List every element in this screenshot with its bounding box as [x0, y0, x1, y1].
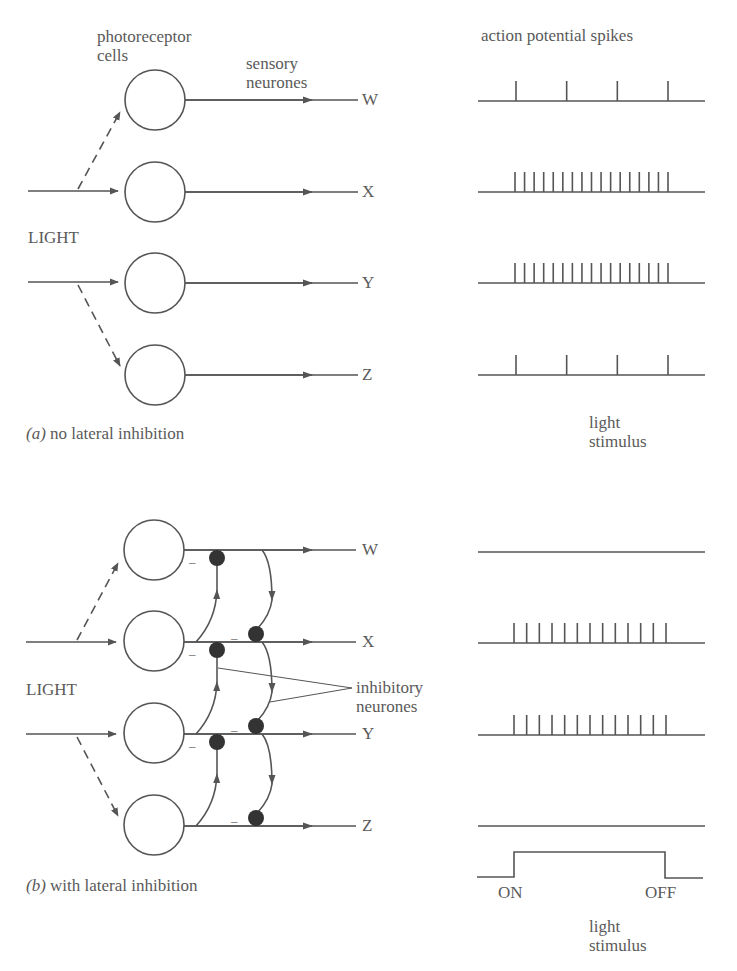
minus-sign: – [189, 552, 196, 571]
off-label: OFF [645, 883, 676, 902]
minus-sign: – [231, 720, 238, 739]
photoreceptor-cell-w [125, 70, 185, 130]
output-label-z: Z [362, 816, 372, 835]
output-label-w: W [362, 540, 378, 559]
photoreceptor-label: photoreceptor cells [97, 27, 191, 65]
photoreceptor-cell-x [125, 162, 185, 222]
caption-a: (a) no lateral inhibition [26, 424, 184, 443]
photoreceptor-cell-z [125, 345, 185, 405]
light-label-b: LIGHT [26, 680, 77, 699]
spikes-title: action potential spikes [481, 26, 633, 45]
inhibitory-neurones-label: inhibitory neurones [356, 678, 423, 716]
light-stimulus-label-b: light stimulus [589, 917, 647, 955]
photoreceptor-cell-w [124, 520, 184, 580]
panel-b-spike-traces [478, 552, 705, 826]
minus-sign: – [231, 811, 238, 830]
minus-sign: – [189, 736, 196, 755]
on-label: ON [498, 883, 523, 902]
output-label-z: Z [362, 365, 372, 384]
output-label-y: Y [362, 273, 374, 292]
photoreceptor-cell-y [124, 703, 184, 763]
minus-sign: – [189, 644, 196, 663]
panel-a-spike-traces [478, 81, 705, 375]
photoreceptor-cell-y [125, 253, 185, 313]
light-stimulus-waveform [477, 852, 703, 878]
light-label-a: LIGHT [28, 228, 79, 247]
output-label-y: Y [362, 724, 374, 743]
output-label-x: X [362, 632, 374, 651]
output-label-x: X [362, 182, 374, 201]
photoreceptor-cell-z [124, 795, 184, 855]
photoreceptor-cell-x [124, 611, 184, 671]
output-label-w: W [362, 90, 378, 109]
light-stimulus-label-a: light stimulus [589, 413, 647, 451]
caption-b: (b) with lateral inhibition [26, 876, 197, 895]
minus-sign: – [231, 628, 238, 647]
sensory-neurones-label: sensory neurones [246, 54, 307, 92]
